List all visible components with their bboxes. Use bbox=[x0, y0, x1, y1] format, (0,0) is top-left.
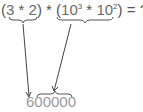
underbrace-right-icon bbox=[57, 17, 113, 23]
arrow-line-left bbox=[23, 24, 29, 96]
arrow-line-right bbox=[54, 24, 71, 91]
result-value: 600000 bbox=[26, 93, 76, 110]
underbrace-left-icon bbox=[9, 17, 37, 23]
